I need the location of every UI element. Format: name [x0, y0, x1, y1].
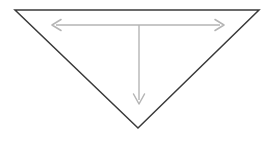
- diagram-svg: [0, 0, 273, 142]
- diagram-canvas: [0, 0, 273, 142]
- inverted-triangle-shape: [15, 10, 259, 128]
